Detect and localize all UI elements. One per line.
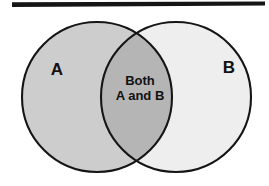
set-b-label: B xyxy=(223,58,235,77)
venn-diagram-figure: A B Both A and B xyxy=(0,0,269,186)
intersection-label-line-2: A and B xyxy=(116,88,165,103)
intersection-label-line-1: Both xyxy=(125,73,155,88)
venn-diagram-canvas: A B Both A and B xyxy=(0,0,269,186)
set-a-label: A xyxy=(51,60,63,79)
